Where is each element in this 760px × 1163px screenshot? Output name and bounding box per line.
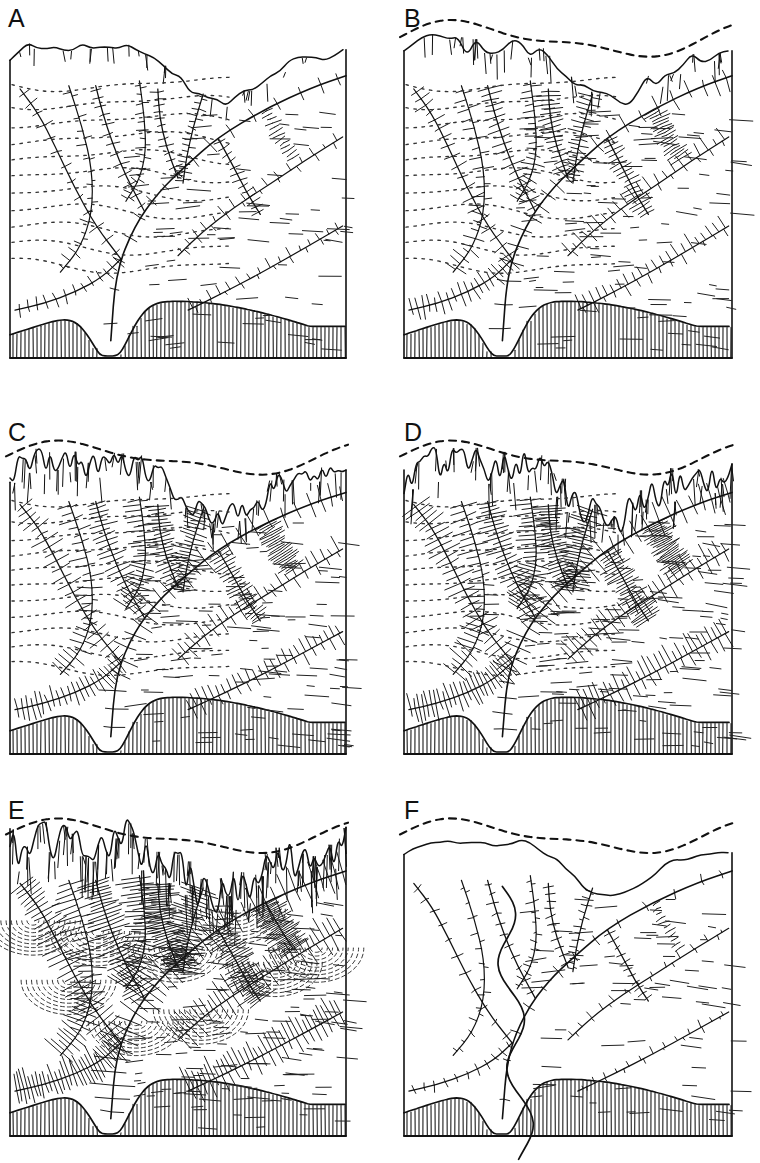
spur-crest-4	[568, 928, 729, 1040]
present-skyline	[404, 840, 728, 895]
spur-crest-5	[578, 1012, 729, 1091]
basement-vertical-hatch	[407, 1080, 731, 1135]
spur-crest-1	[453, 880, 484, 1055]
basement-top-contact	[404, 1079, 729, 1134]
panel-f: F	[0, 0, 760, 1163]
trunk-valley-axis	[502, 871, 732, 1119]
original-surface-dashed-line	[400, 818, 733, 853]
slope-hachures	[412, 871, 723, 1101]
block-diagram-f	[392, 804, 760, 1154]
main-stream-channel	[498, 887, 533, 1160]
figure-root: A B C D E F	[0, 0, 760, 1163]
tributary-valley-2	[488, 880, 536, 998]
spur-crest-2	[517, 876, 536, 989]
